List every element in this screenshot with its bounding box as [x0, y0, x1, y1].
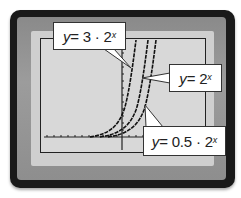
label-exponent: x [213, 135, 217, 145]
label-0.5-times-2-to-x: y = 0.5 · 2x [143, 126, 226, 156]
label-var: y [179, 70, 186, 87]
label-expr: = 0.5 · 2 [159, 133, 213, 150]
label-exponent: x [207, 72, 211, 82]
callout-pointer-3 [145, 105, 163, 127]
label-var: y [152, 133, 159, 150]
label-3-times-2-to-x: y = 3 · 2x [53, 22, 126, 50]
label-2-to-x: y = 2x [169, 64, 222, 92]
label-expr: = 3 · 2 [70, 28, 112, 45]
callout-pointer-2 [142, 73, 170, 83]
label-expr: = 2 [187, 70, 208, 87]
label-var: y [63, 28, 70, 45]
callout-pointer-1 [104, 49, 131, 68]
label-exponent: x [112, 30, 116, 40]
